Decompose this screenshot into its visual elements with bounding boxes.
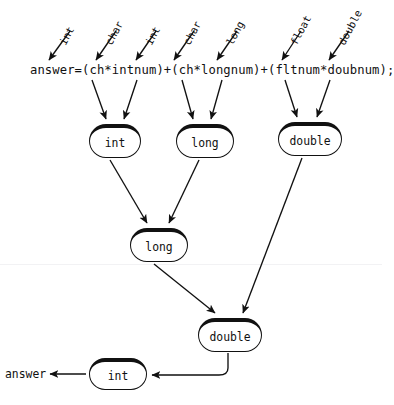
edge-long1-to-long2 [169,160,199,223]
edge-long2-to-double2 [154,264,215,313]
node-double-level1[interactable]: double [278,122,342,156]
edge-code-to-double-a [285,80,297,117]
node-long-level2[interactable]: long [130,228,188,262]
edge-double2-to-int2 [152,353,228,375]
edge-code-to-long-b [211,80,222,119]
edge-code-to-long-a [182,80,193,119]
edge-code-to-int-a [92,80,106,119]
edge-code-to-int-b [124,80,137,119]
node-double-level3[interactable]: double [198,318,262,352]
node-int-result[interactable]: int [89,358,147,390]
edge-int1-to-long2 [110,160,147,223]
edge-double1-to-double2 [243,158,302,313]
node-long-level1[interactable]: long [176,124,234,158]
result-label-answer: answer [5,367,46,381]
code-expression: answer=(ch*intnum)+(ch*longnum)+(fltnum*… [30,63,394,77]
node-int-level1[interactable]: int [89,124,141,158]
edge-code-to-double-b [317,80,330,117]
